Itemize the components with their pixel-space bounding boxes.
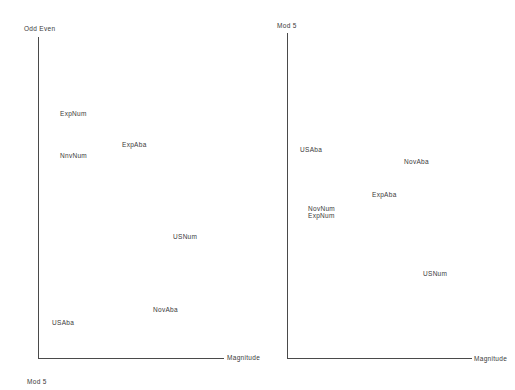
right-y-axis	[287, 33, 288, 359]
right-y-axis-label: Mod 5	[277, 22, 297, 29]
right-scatter-chart: Mod 5 Magnitude USAba NovAba ExpAba NovN…	[0, 0, 515, 390]
next-chart-y-axis-label: Mod 5	[27, 378, 47, 385]
point-label: USAba	[300, 146, 322, 153]
point-label: NovAba	[404, 158, 429, 165]
point-label: USNum	[423, 270, 447, 277]
point-label: NovNum	[308, 205, 335, 212]
right-x-axis-label: Magnitude	[474, 355, 507, 362]
point-label: ExpNum	[308, 212, 335, 219]
point-label: ExpAba	[372, 191, 397, 198]
right-x-axis	[287, 358, 472, 359]
